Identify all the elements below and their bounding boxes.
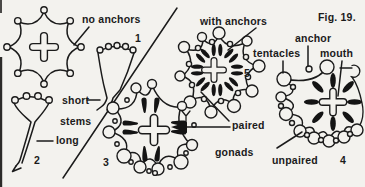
label-with-anchors: with anchors — [200, 15, 267, 27]
y-anchor-icon — [182, 111, 190, 122]
medusa-top-view-unpaired-4 — [276, 60, 363, 147]
tentacle-cluster-icon — [351, 65, 360, 77]
unpaired-leader — [277, 132, 302, 148]
medusa-top-view-no-anchors — [4, 7, 84, 87]
specimen-number-4: 4 — [340, 154, 346, 166]
label-tentacles: tentacles — [253, 47, 300, 59]
figure-19-diagram: Fig. 19. no anchors with anchors anchor … — [0, 0, 365, 187]
specimen-number-5: 5 — [244, 67, 250, 79]
label-stems: stems — [60, 115, 91, 127]
mouth-cross-icon — [202, 58, 227, 83]
label-paired: paired — [232, 119, 265, 131]
label-anchor: anchor — [295, 32, 331, 44]
medusa-top-view-with-anchors-5 — [175, 27, 265, 118]
figure-caption: Fig. 19. — [318, 11, 356, 23]
tentacle-cluster-icons — [12, 93, 53, 104]
label-short: short — [62, 94, 89, 106]
scan-edge-artifact — [0, 0, 2, 187]
stalked-side-view-short-stem — [97, 43, 136, 111]
no-anchors-leader — [74, 27, 89, 45]
specimen-number-2: 2 — [34, 154, 40, 166]
stem-base-icon — [13, 166, 22, 172]
label-no-anchors: no anchors — [82, 13, 141, 25]
label-mouth: mouth — [320, 47, 353, 59]
specimen-number-1: 1 — [135, 32, 141, 44]
mouth-cross-icon — [30, 33, 59, 62]
label-unpaired: unpaired — [272, 154, 318, 166]
label-long: long — [56, 134, 79, 146]
specimen-number-3: 3 — [103, 156, 109, 168]
mouth-cross-icon — [138, 114, 169, 145]
label-gonads: gonads — [215, 146, 254, 158]
mouth-cross-icon — [319, 88, 346, 115]
mouth-leader — [338, 61, 342, 96]
stalked-side-view-long-stem — [12, 93, 53, 172]
tentacle-cluster-icons — [97, 43, 136, 54]
